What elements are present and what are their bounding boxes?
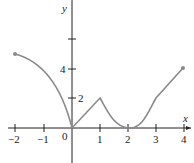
x-tick-label-neg1: −1 — [37, 133, 49, 145]
y-tick-label-4: 4 — [60, 63, 66, 75]
endpoint-right — [181, 66, 185, 70]
function-graph: y x 0 −2 −1 1 2 3 4 2 4 — [0, 0, 194, 163]
function-curve — [15, 54, 183, 128]
x-tick-label-4: 4 — [181, 133, 187, 145]
origin-label: 0 — [62, 130, 68, 142]
y-axis-label: y — [61, 2, 67, 14]
x-axis-arrow-icon — [186, 126, 191, 130]
x-axis-label: x — [182, 112, 188, 124]
x-tick-label-3: 3 — [153, 133, 159, 145]
y-tick-label-2: 2 — [78, 92, 84, 104]
endpoint-left — [13, 52, 17, 56]
x-tick-label-neg2: −2 — [8, 133, 20, 145]
x-tick-label-2: 2 — [125, 133, 131, 145]
x-tick-label-1: 1 — [97, 133, 103, 145]
